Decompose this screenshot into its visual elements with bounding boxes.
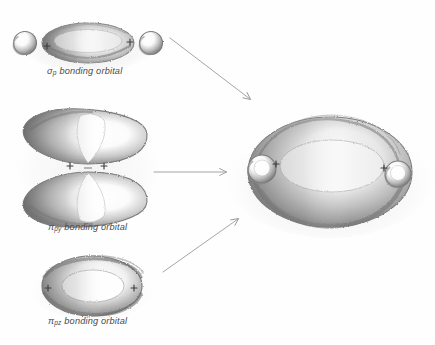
label-pi-pz-bonding-orbital: πpzbonding orbital	[48, 316, 127, 326]
label-pi-pz-subscript: pz	[54, 319, 61, 326]
composite-left-sphere	[248, 155, 276, 184]
label-pi-py-bonding-orbital: πpybonding orbital	[48, 222, 127, 232]
composite-triple-bond-orbital	[226, 114, 434, 238]
sigma-right-sphere	[140, 32, 163, 55]
orbital-pi-py	[16, 109, 160, 227]
molecular-orbital-figure: σpbonding orbital πpybonding orbital πpz…	[0, 0, 435, 345]
label-pi-py-subscript: py	[54, 225, 61, 232]
orbital-pi-pz	[30, 256, 154, 320]
label-pi-pz-text: bonding orbital	[64, 316, 127, 326]
label-sigma-subscript: p	[53, 69, 57, 76]
arrow-sigma-to-composite	[170, 38, 250, 99]
label-sigma-text: bonding orbital	[59, 66, 122, 76]
orbital-diagram-canvas	[0, 0, 435, 345]
label-sigma-p-bonding-orbital: σpbonding orbital	[47, 66, 122, 76]
label-pi-py-text: bonding orbital	[64, 222, 127, 232]
orbital-sigma-p	[14, 21, 163, 71]
sigma-left-sphere	[14, 32, 37, 55]
arrow-pi-pz-to-composite	[163, 219, 238, 272]
composite-right-sphere	[385, 161, 411, 187]
